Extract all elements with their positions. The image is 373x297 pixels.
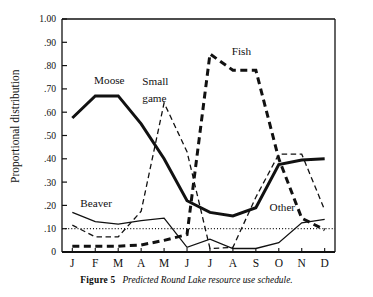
y-tick-label: .80 (44, 60, 56, 71)
y-tick-label: 0 (51, 246, 56, 257)
figure-caption-label: Figure 5 (80, 275, 115, 285)
figure-container: 0.10.20.30.40.50.60.70.80.901.00 JFMAMJJ… (0, 0, 373, 297)
annotation-fish: Fish (232, 45, 252, 57)
annotation-game: game (142, 92, 166, 104)
x-axis-month-labels: JFMAMJJASOND (70, 257, 329, 269)
y-tick-label: .40 (44, 153, 56, 164)
x-axis-label-june: J (185, 257, 190, 269)
figure-caption: Figure 5Predicted Round Lake resource us… (0, 274, 373, 286)
x-axis-label-july: J (208, 257, 213, 269)
y-tick-label: .10 (44, 223, 56, 234)
annotation-beaver: Beaver (80, 197, 112, 209)
x-axis-label-april: A (137, 257, 146, 269)
y-tick-label: .50 (44, 130, 56, 141)
x-axis-label-october: O (275, 257, 283, 269)
y-tick-label: .70 (44, 83, 56, 94)
y-tick-label: .30 (44, 177, 56, 188)
y-axis-title: Proportional distribution (9, 69, 22, 183)
x-axis-label-december: D (321, 257, 329, 269)
x-axis-label-september: S (253, 257, 259, 269)
x-axis-label-february: F (92, 257, 98, 269)
annotation-moose: Moose (94, 74, 124, 86)
y-tick-label: .60 (44, 107, 56, 118)
x-axis-label-january: J (70, 257, 75, 269)
x-axis-label-november: N (298, 257, 307, 269)
figure-caption-text: Predicted Round Lake resource use schedu… (122, 275, 292, 285)
annotation-other: Other (270, 201, 296, 213)
x-axis-label-may: M (159, 257, 169, 269)
y-tick-label: .90 (44, 37, 56, 48)
annotation-small: Small (142, 75, 168, 87)
plot-background (62, 19, 335, 252)
x-axis-label-august: A (229, 257, 238, 269)
y-tick-label: .20 (44, 200, 56, 211)
x-axis-label-march: M (113, 257, 123, 269)
y-tick-label: 1.00 (39, 13, 56, 24)
y-axis-tick-labels: 0.10.20.30.40.50.60.70.80.901.00 (39, 13, 56, 257)
resource-use-line-chart: 0.10.20.30.40.50.60.70.80.901.00 JFMAMJJ… (0, 0, 373, 297)
